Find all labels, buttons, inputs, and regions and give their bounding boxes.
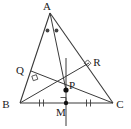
right-angle-mark-Q (32, 75, 38, 81)
angle-mark-dot-right (55, 29, 59, 33)
angle-bisector-marks (46, 29, 59, 33)
cevian-BR (20, 63, 89, 103)
label-C: C (116, 98, 123, 110)
label-A: A (43, 0, 51, 12)
angle-mark-dot-left (46, 29, 50, 33)
right-angle-square-Q (32, 75, 38, 81)
label-B: B (2, 98, 9, 110)
side-AB (20, 13, 50, 103)
geometry-canvas: A B C Q R P M (0, 0, 131, 129)
label-Q: Q (16, 64, 24, 76)
label-P: P (69, 79, 75, 91)
point-P-dot (63, 87, 68, 92)
label-M: M (56, 106, 66, 118)
geometry-figure: A B C Q R P M (0, 0, 131, 129)
label-R: R (93, 56, 101, 68)
internal-segments (20, 13, 113, 126)
point-M-dot (64, 101, 68, 105)
